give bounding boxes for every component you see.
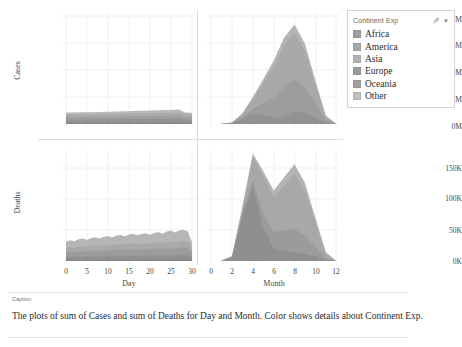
legend-header: Continent Exp ▼ <box>353 15 449 26</box>
legend-swatch <box>353 92 361 100</box>
visualization-canvas: Cases 8M 6M 4M 2M 0M <box>0 0 462 290</box>
legend-item-asia[interactable]: Asia <box>353 53 449 65</box>
caption-label: Caption <box>12 296 31 302</box>
axis-label-deaths: Deaths <box>13 177 22 229</box>
legend-swatch <box>353 43 361 51</box>
legend-swatch <box>353 30 361 38</box>
legend-swatch <box>353 67 361 75</box>
panel-divider-horizontal <box>38 139 343 140</box>
legend-swatch <box>353 55 361 63</box>
legend-label: Oceania <box>365 79 396 89</box>
legend-label: Europe <box>365 66 392 76</box>
chart-cases-by-day[interactable] <box>62 13 196 127</box>
axis-label-cases: Cases <box>13 46 22 96</box>
legend-item-america[interactable]: America <box>353 40 449 52</box>
legend-label: Other <box>365 91 387 101</box>
chart-deaths-by-day[interactable] <box>62 150 196 265</box>
legend-title: Continent Exp <box>353 17 430 24</box>
legend-item-oceania[interactable]: Oceania <box>353 78 449 90</box>
panel-divider-vertical <box>197 10 198 265</box>
legend-item-other[interactable]: Other <box>353 90 449 102</box>
chart-deaths-by-month[interactable] <box>207 150 339 265</box>
legend-label: America <box>365 42 398 52</box>
axis-label-month: Month <box>263 279 284 288</box>
legend-item-africa[interactable]: Africa <box>353 28 449 40</box>
legend-panel[interactable]: Continent Exp ▼ Africa America Asia Euro… <box>347 10 455 108</box>
legend-item-europe[interactable]: Europe <box>353 65 449 77</box>
highlighter-icon[interactable] <box>432 16 441 25</box>
chevron-down-icon[interactable]: ▼ <box>443 18 449 24</box>
caption-container: Caption The plots of sum of Cases and su… <box>8 292 408 338</box>
legend-label: Asia <box>365 54 382 64</box>
legend-label: Africa <box>365 29 389 39</box>
chart-cases-by-month[interactable] <box>207 13 339 127</box>
axis-label-day: Day <box>122 279 135 288</box>
caption-text: The plots of sum of Cases and sum of Dea… <box>12 311 423 321</box>
legend-swatch <box>353 80 361 88</box>
